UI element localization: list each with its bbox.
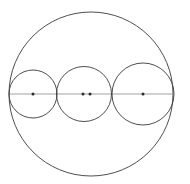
center-dot-middle-circle <box>82 93 85 96</box>
geometry-figure-container <box>0 0 190 184</box>
geometry-diagram <box>0 0 190 184</box>
center-dot-right-circle <box>142 93 145 96</box>
figure-background <box>0 0 190 184</box>
center-dot-outer-circle <box>89 93 92 96</box>
center-dot-left-circle <box>32 93 35 96</box>
